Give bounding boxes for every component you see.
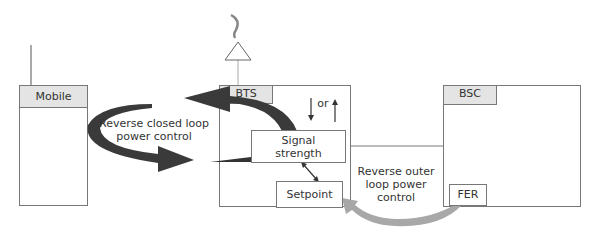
signal-strength-label-2: strength (252, 147, 345, 160)
bidirectional-arrow-icon (301, 162, 319, 182)
signal-strength-box: Signal strength (251, 130, 346, 163)
closed-loop-label-2: power control (92, 130, 216, 143)
fer-box: FER (449, 184, 487, 206)
outer-loop-label-1: Reverse outer (352, 165, 440, 178)
outer-loop-label: Reverse outer loop power control (352, 165, 440, 204)
setpoint-box: Setpoint (276, 181, 343, 208)
signal-strength-label-1: Signal (252, 134, 345, 147)
closed-loop-label: Reverse closed loop power control (92, 117, 216, 143)
or-label: or (316, 97, 330, 110)
outer-loop-label-3: control (352, 191, 440, 204)
outer-loop-label-2: loop power (352, 178, 440, 191)
closed-loop-label-1: Reverse closed loop (92, 117, 216, 130)
